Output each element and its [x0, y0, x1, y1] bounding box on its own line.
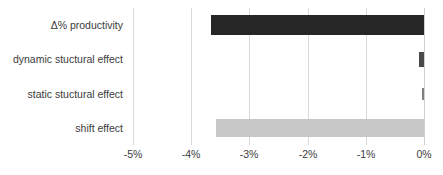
x-tick-label--4pct: -4%: [161, 148, 221, 160]
category-axis: Δ% productivity dynamic stuctural effect…: [0, 8, 130, 145]
x-tick-label--2pct: -2%: [278, 148, 338, 160]
category-label-productivity: Δ% productivity: [51, 19, 123, 31]
bar-chart: Δ% productivity dynamic stuctural effect…: [0, 0, 443, 175]
bar-3: [216, 119, 424, 137]
gridline--4pct: [191, 8, 192, 145]
plot-area: [133, 8, 424, 145]
bar-2: [422, 88, 424, 100]
gridline--5pct: [133, 8, 134, 145]
value-axis: -5%-4%-3%-2%-1%0%: [133, 148, 424, 168]
gridline-0pct: [424, 8, 425, 145]
bar-1: [419, 52, 424, 67]
x-tick-label-0pct: 0%: [394, 148, 443, 160]
x-tick-label--5pct: -5%: [103, 148, 163, 160]
bar-0: [211, 15, 424, 35]
x-tick-label--3pct: -3%: [219, 148, 279, 160]
x-tick-label--1pct: -1%: [336, 148, 396, 160]
category-label-dynamic-structural-effect: dynamic stuctural effect: [13, 53, 123, 65]
category-label-shift-effect: shift effect: [75, 122, 123, 134]
category-label-static-structural-effect: static stuctural effect: [27, 88, 123, 100]
